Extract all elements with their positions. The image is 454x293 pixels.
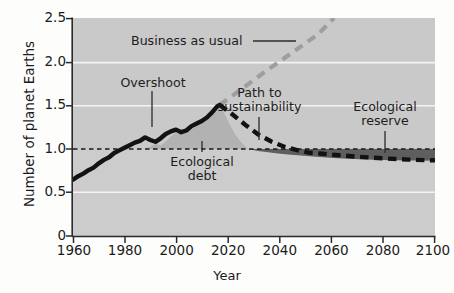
annotation-ecological-reserve: Ecological reserve [344, 100, 426, 128]
x-tick-label: 2100 [405, 242, 454, 258]
x-tick-label: 2060 [303, 242, 359, 258]
x-tick-label: 2080 [355, 242, 411, 258]
y-axis-ticks [66, 19, 72, 236]
annotation-reserve-line1: Ecological [344, 100, 426, 114]
x-tick-label: 1980 [97, 242, 153, 258]
x-tick-label: 2040 [252, 242, 308, 258]
y-tick-label: 2.5 [26, 11, 66, 25]
chart-figure: Number of planet Earths 2.5 2.0 1.5 1.0 … [0, 0, 454, 293]
annotation-path-to-sustainability: Path to sustainability [207, 86, 312, 114]
x-tick-label: 2000 [149, 242, 205, 258]
y-tick-label: 1.5 [26, 98, 66, 112]
plot-background-lower [73, 149, 435, 236]
ecological-reserve-area [248, 149, 435, 161]
annotation-path-line2: sustainability [207, 100, 312, 114]
x-axis-title: Year [0, 268, 454, 283]
annotation-debt-line1: Ecological [161, 155, 243, 169]
annotation-ecological-debt: Ecological debt [161, 155, 243, 183]
y-tick-label: 1.0 [26, 142, 66, 156]
annotation-reserve-line2: reserve [344, 114, 426, 128]
annotation-business-as-usual: Business as usual [131, 34, 243, 48]
annotation-debt-line2: debt [161, 169, 243, 183]
annotation-overshoot: Overshoot [113, 76, 193, 90]
x-tick-label: 1960 [46, 242, 102, 258]
y-tick-label: 2.0 [26, 55, 66, 69]
y-tick-label: 0 [26, 229, 66, 243]
annotation-path-line1: Path to [207, 86, 312, 100]
x-tick-label: 2020 [200, 242, 256, 258]
y-tick-label: 0.5 [26, 185, 66, 199]
